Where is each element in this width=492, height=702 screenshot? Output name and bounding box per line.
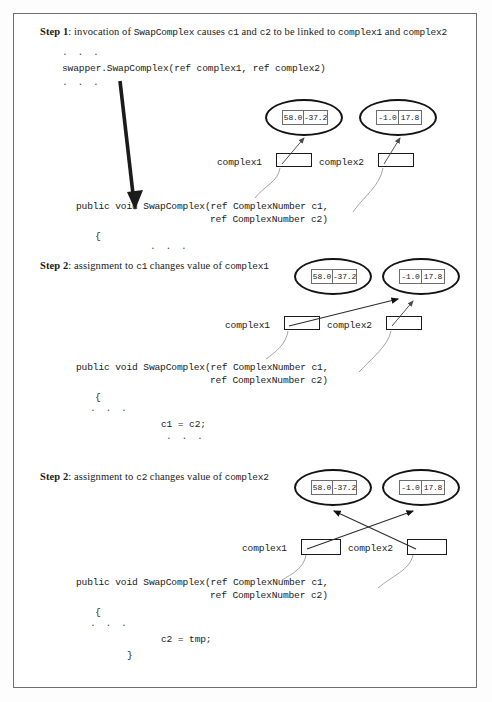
step2a-object1-re: 58.0 — [312, 270, 333, 283]
step1-brace-open: { — [95, 230, 101, 244]
step2b-heading-mono1: c2 — [136, 472, 147, 483]
step1-object2-im: 17.8 — [399, 111, 421, 124]
step2b-object1-re: 58.0 — [312, 481, 333, 494]
step1-heading-text3: and — [239, 26, 260, 37]
step2b-object1-im: -37.2 — [333, 481, 356, 494]
step2b-var2-box — [407, 539, 447, 555]
step2b-var1-box — [301, 539, 341, 555]
step1-object1-re: 58.0 — [283, 111, 304, 124]
step2a-var2-box — [386, 316, 422, 330]
step2a-heading-mono1: c1 — [136, 261, 147, 272]
step1-signature-line1: public void SwapComplex(ref ComplexNumbe… — [76, 200, 328, 214]
step2b-heading-text1: : assignment to — [68, 471, 136, 482]
step1-heading-text5: and — [382, 26, 403, 37]
step2b-signature-line2: ref ComplexNumber c2) — [210, 589, 328, 603]
step1-heading-mono1: SwapComplex — [134, 27, 195, 38]
step2a-assignment: c1 = c2; — [161, 418, 206, 432]
step2b-object1-fields: 58.0 -37.2 — [311, 480, 357, 495]
step2b-dots-body: . . . — [90, 618, 129, 629]
step1-heading-step: Step 1 — [40, 26, 68, 37]
step2a-object2-im: 17.8 — [422, 270, 444, 283]
step2a-object1-im: -37.2 — [333, 270, 356, 283]
step2b-heading-mono2: complex2 — [225, 472, 269, 483]
step2a-signature-line2: ref ComplexNumber c2) — [210, 374, 328, 388]
step2a-var1-box — [284, 316, 320, 330]
step1-var1-label: complex1 — [217, 157, 262, 168]
step2b-brace-close: } — [127, 649, 133, 663]
step2a-object2-re: -1.0 — [400, 270, 422, 283]
step2a-signature-line1: public void SwapComplex(ref ComplexNumbe… — [76, 361, 328, 375]
step1-heading-mono4: complex1 — [338, 27, 382, 38]
step1-var2-box — [378, 153, 414, 167]
figure-page: Step 1: invocation of SwapComplex causes… — [0, 0, 492, 702]
step2a-object1-fields: 58.0 -37.2 — [311, 269, 357, 284]
step1-heading-text4: to be linked to — [271, 26, 338, 37]
step2a-heading-text2: changes value of — [147, 260, 225, 271]
step1-heading-mono5: complex2 — [403, 27, 447, 38]
step2b-var1-label: complex1 — [242, 543, 287, 554]
step1-param-link-c2 — [353, 168, 383, 212]
step2a-param-link-c2 — [359, 331, 391, 372]
step2b-object2-re: -1.0 — [400, 481, 422, 494]
step1-dots-top: . . . — [62, 47, 101, 58]
step2b-var2-label: complex2 — [348, 543, 393, 554]
step1-var1-box — [276, 153, 312, 167]
step1-heading-text2: causes — [194, 26, 227, 37]
step1-dots-body: . . . — [150, 241, 189, 252]
step2b-param-link-c2 — [378, 555, 413, 588]
step2b-heading-text2: changes value of — [147, 471, 225, 482]
step2b-heading: Step 2: assignment to c2 changes value o… — [40, 471, 269, 483]
step1-heading: Step 1: invocation of SwapComplex causes… — [40, 26, 447, 38]
step2b-heading-step: Step 2 — [40, 471, 68, 482]
step2b-object2-fields: -1.0 17.8 — [399, 480, 445, 495]
step2a-heading-text1: : assignment to — [68, 260, 136, 271]
step1-object2-re: -1.0 — [377, 111, 399, 124]
figure-frame: Step 1: invocation of SwapComplex causes… — [13, 13, 477, 688]
step2b-assignment: c2 = tmp; — [161, 633, 211, 647]
step1-heading-text1: : invocation of — [68, 26, 133, 37]
step1-object1-im: -37.2 — [304, 111, 327, 124]
step1-heading-mono2: c1 — [228, 27, 239, 38]
step1-var2-label: complex2 — [319, 157, 364, 168]
step2a-dots-body: . . . — [90, 403, 129, 414]
step2a-var2-label: complex2 — [327, 320, 372, 331]
step2a-dots-after: . . . — [166, 431, 205, 442]
step2b-signature-line1: public void SwapComplex(ref ComplexNumbe… — [76, 576, 328, 590]
step2a-param-link-c1 — [266, 331, 288, 359]
step2a-object2-fields: -1.0 17.8 — [399, 269, 445, 284]
step2a-var1-label: complex1 — [225, 320, 270, 331]
step2b-object2-im: 17.8 — [422, 481, 444, 494]
step2a-heading: Step 2: assignment to c1 changes value o… — [40, 260, 269, 272]
step1-invocation-arrow — [120, 81, 143, 210]
step1-object1-fields: 58.0 -37.2 — [282, 110, 328, 125]
step2a-heading-mono2: complex1 — [225, 261, 269, 272]
step1-param-link-c1 — [255, 168, 280, 198]
step1-signature-line2: ref ComplexNumber c2) — [210, 213, 328, 227]
step2a-heading-step: Step 2 — [40, 260, 68, 271]
step1-heading-mono3: c2 — [260, 27, 271, 38]
step1-object2-fields: -1.0 17.8 — [376, 110, 422, 125]
step1-call-line: swapper.SwapComplex(ref complex1, ref co… — [62, 62, 326, 76]
step1-dots-mid: . . . — [62, 77, 101, 88]
